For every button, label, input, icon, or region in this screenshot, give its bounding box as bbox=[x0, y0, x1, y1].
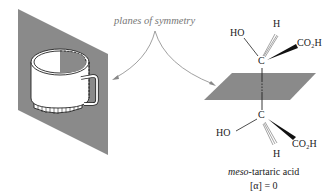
horizontal-symmetry-plane bbox=[204, 73, 316, 100]
molecule-name: meso-tartaric acid bbox=[228, 167, 299, 177]
lower-h-label: H bbox=[273, 149, 280, 159]
planes-of-symmetry-label: planes of symmetry bbox=[114, 16, 195, 27]
arrowhead-right-icon bbox=[209, 81, 216, 86]
hashed-bond-lower-h bbox=[263, 122, 277, 145]
upper-co2h-label: CO₂H bbox=[297, 38, 322, 48]
optical-rotation: [α] = 0 bbox=[250, 181, 278, 191]
upper-h-label: H bbox=[273, 19, 280, 29]
mug-illustration bbox=[31, 49, 97, 114]
molecule-name-rest: -tartaric acid bbox=[249, 166, 300, 177]
wedge-bond-lower-co2h bbox=[268, 119, 296, 140]
upper-ho-label: HO bbox=[230, 28, 244, 38]
upper-carbon-label: C bbox=[258, 56, 265, 66]
molecule-name-prefix: meso bbox=[228, 166, 249, 177]
hashed-bond-upper-h bbox=[263, 34, 278, 57]
lower-ho-label: HO bbox=[216, 128, 230, 138]
bond-lower-ho bbox=[236, 119, 257, 131]
bond-upper-ho bbox=[244, 38, 258, 56]
lower-co2h-label: CO₂H bbox=[292, 139, 317, 149]
arrowhead-left-icon bbox=[112, 75, 119, 80]
lower-carbon-label: C bbox=[258, 110, 265, 120]
annotation-arrows bbox=[115, 31, 213, 84]
